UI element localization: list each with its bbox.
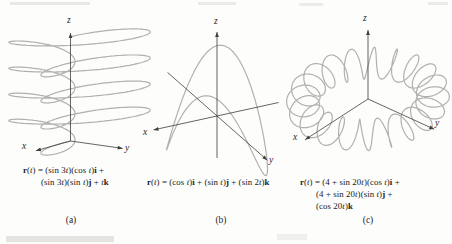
panel-b-x-axis-arrow <box>154 127 159 131</box>
panel-a-formula-line-2: (sin 3t)(sin t)j + tk <box>23 176 109 188</box>
panel-c-x-axis-label: x <box>293 133 297 142</box>
panel-a-caption: (a) <box>59 215 83 225</box>
panel-a-x-axis-label: x <box>22 142 26 151</box>
panel-c-formula: r(t) = (4 + sin 20t)(cos t)i + (4 + sin … <box>300 176 400 212</box>
panel-a-curve <box>9 29 150 155</box>
panel-b-y-axis-label: y <box>269 156 273 165</box>
panel-c-z-axis-label: z <box>363 14 367 23</box>
figure-three-space-curves: z x y z x y z x y r(t) = (sin 3t)(cos t)… <box>0 0 452 244</box>
panel-a-z-axis-label: z <box>67 16 71 25</box>
panel-a-y-axis-label: y <box>125 144 129 153</box>
panel-b-formula: r(t) = (cos t)i + (sin t)j + (sin 2t)k <box>147 176 270 188</box>
panel-c-formula-line-2: (4 + sin 20t)(sin t)j + <box>300 188 400 200</box>
panel-a-formula-line-1: r(t) = (sin 3t)(cos t)i + <box>23 164 109 176</box>
panel-a-formula: r(t) = (sin 3t)(cos t)i + (sin 3t)(sin t… <box>23 164 109 188</box>
panel-c-formula-line-3: (cos 20t)k <box>300 200 400 212</box>
panel-b-caption: (b) <box>209 215 233 225</box>
panel-a-x-axis <box>36 141 71 151</box>
panel-b-z-axis-label: z <box>214 17 218 26</box>
panel-b-z-axis-arrow <box>215 32 219 37</box>
panel-b-x-axis-label: x <box>143 128 147 137</box>
panel-c-caption: (c) <box>356 215 380 225</box>
panel-a-z-axis-arrow <box>69 33 73 38</box>
panel-a-x-axis-arrow <box>36 148 41 152</box>
panel-c-formula-line-1: r(t) = (4 + sin 20t)(cos t)i + <box>300 176 400 188</box>
panel-b-formula-line-1: r(t) = (cos t)i + (sin t)j + (sin 2t)k <box>147 176 270 188</box>
panel-a-y-axis-arrow <box>118 146 123 150</box>
panel-c-z-axis-arrow <box>366 30 370 35</box>
panel-a-y-axis <box>71 141 123 148</box>
panel-c-y-axis-arrow <box>429 125 434 129</box>
panel-c-y-axis-label: y <box>435 119 439 128</box>
